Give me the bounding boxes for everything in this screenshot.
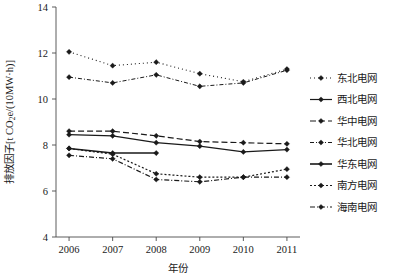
legend-marker-西北电网 [318,97,323,102]
data-point-南方电网 [154,171,159,176]
data-point-华中电网 [110,129,115,134]
x-axis: 200620072008200920102011 [56,237,300,255]
series-line-海南电网 [69,155,287,181]
legend-marker-海南电网 [318,204,323,209]
legend-label-西北电网: 西北电网 [337,93,377,105]
data-point-南方电网 [284,167,289,172]
data-point-海南电网 [66,153,71,158]
y-axis-title: 排放因子[t CO2e/(10MW·h)] [3,60,17,184]
data-point-西北电网 [284,147,289,152]
y-axis: 468101214 [38,2,57,243]
y-tick-label: 10 [38,94,49,105]
legend-label-华东电网: 华东电网 [337,158,377,170]
data-point-华北电网 [66,75,71,80]
data-point-海南电网 [284,175,289,180]
data-point-华中电网 [197,139,202,144]
legend-marker-华北电网 [318,140,323,145]
data-point-海南电网 [241,175,246,180]
data-point-西北电网 [241,149,246,154]
data-point-华北电网 [197,84,202,89]
data-series-group [66,49,289,184]
x-tick-label: 2008 [146,244,167,255]
data-point-海南电网 [197,179,202,184]
data-point-南方电网 [66,146,71,151]
data-point-东北电网 [66,49,71,54]
series-line-华北电网 [69,70,287,86]
axis-titles: 年份排放因子[t CO2e/(10MW·h)] [3,60,189,274]
data-point-东北电网 [110,63,115,68]
x-tick-label: 2011 [277,244,298,255]
legend-marker-华东电网 [318,161,323,166]
data-point-华北电网 [110,80,115,85]
legend-marker-南方电网 [318,183,323,188]
data-point-华东电网 [154,150,159,155]
y-tick-label: 8 [43,140,48,151]
data-point-东北电网 [197,71,202,76]
legend-marker-东北电网 [318,75,323,80]
legend-label-华北电网: 华北电网 [337,136,377,148]
chart-legend: 东北电网西北电网华中电网华北电网华东电网南方电网海南电网 [310,72,377,213]
series-line-华中电网 [69,131,287,144]
legend-label-海南电网: 海南电网 [337,201,377,213]
series-line-东北电网 [69,52,287,82]
x-tick-label: 2010 [233,244,254,255]
data-point-西北电网 [154,140,159,145]
data-point-华北电网 [154,72,159,77]
data-point-海南电网 [154,177,159,182]
data-point-海南电网 [110,156,115,161]
x-tick-label: 2007 [102,244,123,255]
legend-label-南方电网: 南方电网 [337,179,377,191]
y-tick-label: 12 [38,48,49,59]
chart-container: 468101214 200620072008200920102011 年份排放因… [0,0,398,280]
data-point-华中电网 [284,141,289,146]
y-tick-label: 6 [43,186,48,197]
legend-label-华中电网: 华中电网 [337,115,377,127]
data-point-东北电网 [154,60,159,65]
x-axis-title: 年份 [168,262,189,274]
series-line-南方电网 [69,148,287,177]
data-point-华中电网 [241,140,246,145]
legend-marker-华中电网 [318,118,323,123]
data-point-华中电网 [66,129,71,134]
data-point-华中电网 [154,133,159,138]
x-tick-label: 2009 [189,244,210,255]
line-chart: 468101214 200620072008200920102011 年份排放因… [0,0,398,280]
legend-label-东北电网: 东北电网 [337,72,377,84]
y-axis-title-post: e/(10MW·h)] [4,60,16,117]
y-tick-label: 14 [38,2,49,13]
x-tick-label: 2006 [59,244,80,255]
y-tick-label: 4 [43,232,49,243]
y-axis-title-pre: 排放因子[t CO [3,120,15,184]
